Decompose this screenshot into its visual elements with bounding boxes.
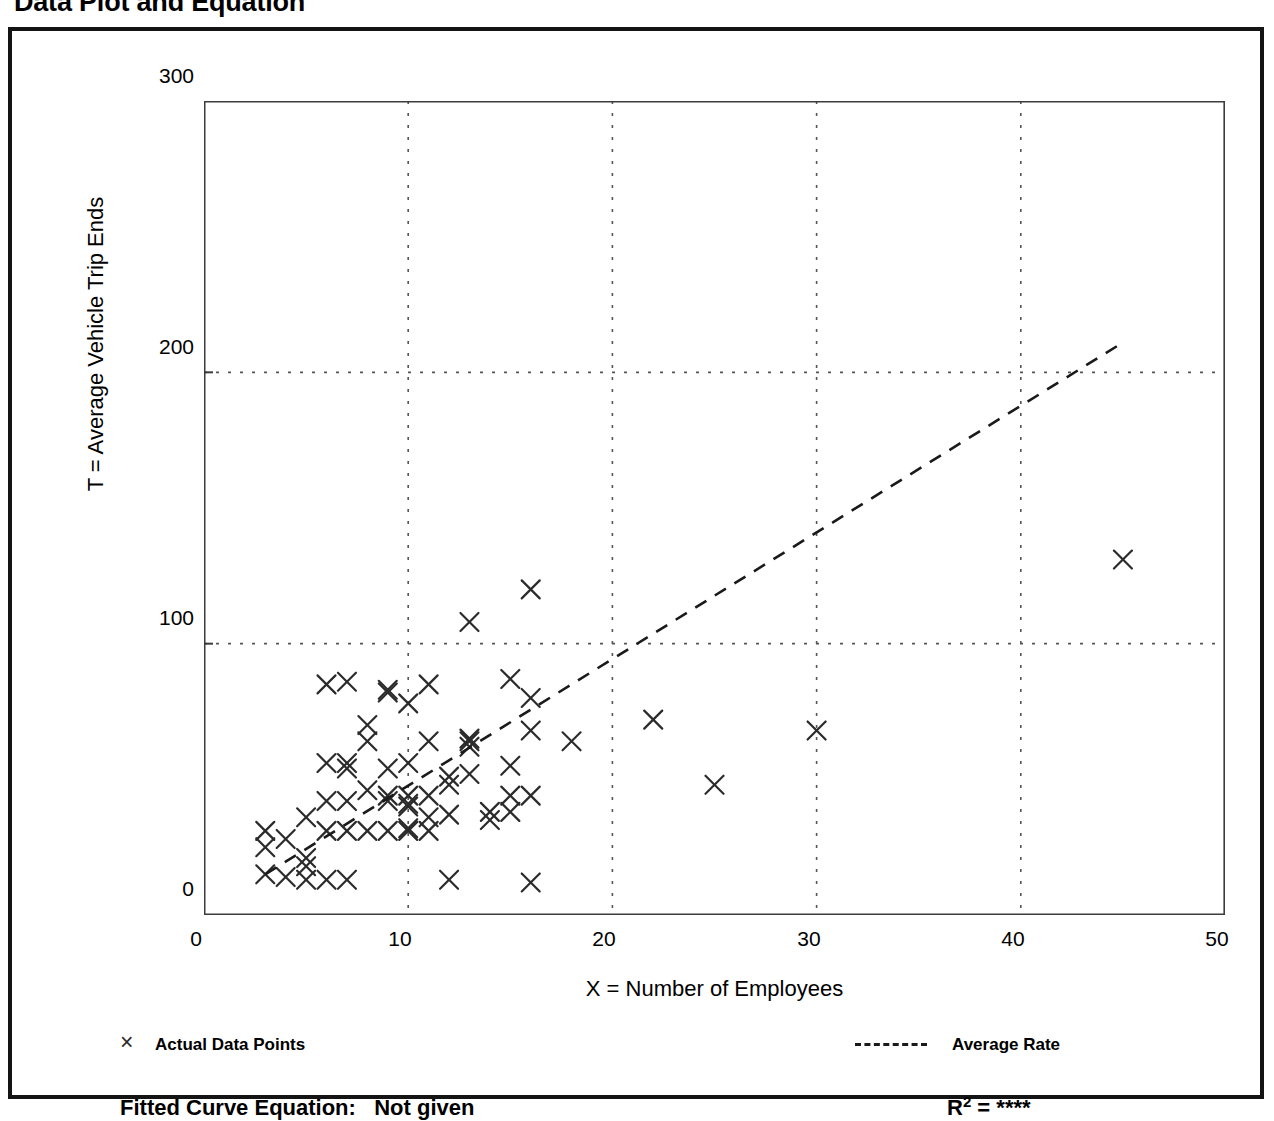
data-point-marker xyxy=(399,822,417,840)
data-point-group xyxy=(256,551,1132,892)
fitted-curve-equation: Fitted Curve Equation: Not given xyxy=(120,1095,474,1121)
x-tick-label-0: 0 xyxy=(166,928,226,949)
trend-line-average-rate xyxy=(265,342,1123,874)
y-axis-title: T = Average Vehicle Trip Ends xyxy=(83,164,109,524)
data-point-marker xyxy=(420,808,438,826)
data-point-marker xyxy=(501,787,519,805)
x-tick-label-20: 20 xyxy=(574,928,634,949)
r-squared-exponent: 2 xyxy=(963,1093,971,1110)
legend-marker-x-icon: × xyxy=(120,1031,133,1054)
data-point-marker xyxy=(501,670,519,688)
data-point-marker xyxy=(379,822,397,840)
data-point-marker xyxy=(379,681,397,699)
data-point-marker xyxy=(318,754,336,772)
data-point-marker xyxy=(277,868,295,886)
data-point-marker xyxy=(358,732,376,750)
data-point-marker xyxy=(338,871,356,889)
data-point-marker xyxy=(318,675,336,693)
r-squared-stars: **** xyxy=(996,1095,1030,1120)
data-point-marker xyxy=(379,684,397,702)
data-point-marker xyxy=(338,673,356,691)
data-point-marker xyxy=(440,806,458,824)
data-point-marker xyxy=(318,871,336,889)
data-point-marker xyxy=(420,787,438,805)
x-tick-label-50: 50 xyxy=(1187,928,1247,949)
y-tick-label-100: 100 xyxy=(124,607,194,628)
scatter-plot-svg xyxy=(204,101,1225,915)
data-point-marker xyxy=(399,797,417,815)
y-tick-label-0: 0 xyxy=(124,878,194,899)
y-tick-label-300: 300 xyxy=(124,65,194,86)
data-point-marker xyxy=(399,694,417,712)
data-point-marker xyxy=(297,857,315,875)
x-tick-label-30: 30 xyxy=(779,928,839,949)
legend-dashed-line-icon xyxy=(855,1043,927,1046)
data-point-marker xyxy=(358,716,376,734)
data-point-marker xyxy=(481,811,499,829)
data-point-marker xyxy=(522,689,540,707)
equation-value: Not given xyxy=(374,1095,474,1120)
data-point-marker xyxy=(440,776,458,794)
data-point-marker xyxy=(522,721,540,739)
data-point-marker xyxy=(808,721,826,739)
data-point-marker xyxy=(358,781,376,799)
data-point-marker xyxy=(522,580,540,598)
legend-label-actual-data-points: Actual Data Points xyxy=(155,1035,305,1055)
page-title: Data Plot and Equation xyxy=(14,0,305,18)
data-point-marker xyxy=(256,838,274,856)
y-tick-label-200: 200 xyxy=(124,336,194,357)
figure-frame: 300 200 100 0 0 10 20 30 40 50 T = Avera… xyxy=(8,27,1264,1099)
data-point-marker xyxy=(399,754,417,772)
data-point-marker xyxy=(440,768,458,786)
data-point-marker xyxy=(318,792,336,810)
data-point-marker xyxy=(644,711,662,729)
data-point-marker xyxy=(297,808,315,826)
data-point-marker xyxy=(501,803,519,821)
r-squared-label: R xyxy=(947,1095,963,1120)
x-tick-label-40: 40 xyxy=(983,928,1043,949)
data-point-marker xyxy=(1114,551,1132,569)
r-squared-value: R2 = **** xyxy=(947,1093,1031,1121)
data-point-marker xyxy=(522,873,540,891)
data-point-marker xyxy=(501,757,519,775)
data-point-marker xyxy=(420,675,438,693)
data-point-marker xyxy=(706,776,724,794)
data-point-marker xyxy=(256,822,274,840)
data-point-marker xyxy=(379,759,397,777)
x-axis-title: X = Number of Employees xyxy=(204,976,1225,1002)
data-point-marker xyxy=(460,730,478,748)
plot-area xyxy=(204,101,1225,915)
data-point-marker xyxy=(522,787,540,805)
legend-label-average-rate: Average Rate xyxy=(952,1035,1060,1055)
data-point-marker xyxy=(563,732,581,750)
data-point-marker xyxy=(481,803,499,821)
data-point-marker xyxy=(399,787,417,805)
data-point-marker xyxy=(297,849,315,867)
data-point-marker xyxy=(460,613,478,631)
data-point-marker xyxy=(460,765,478,783)
data-point-marker xyxy=(338,792,356,810)
data-point-marker xyxy=(440,871,458,889)
x-tick-label-10: 10 xyxy=(370,928,430,949)
data-point-marker xyxy=(358,822,376,840)
data-point-marker xyxy=(420,732,438,750)
equation-label: Fitted Curve Equation: xyxy=(120,1095,356,1120)
data-point-marker xyxy=(277,830,295,848)
r-squared-equals: = xyxy=(977,1095,990,1120)
